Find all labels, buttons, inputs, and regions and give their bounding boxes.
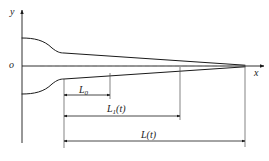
dimension-label-L1-main: L [107, 103, 113, 114]
dimension-label-L0-main: L [79, 84, 85, 95]
dimension-label-L0: L0 [79, 85, 88, 95]
dimension-label-L: L(t) [141, 130, 156, 140]
dimension-label-L1-paren: (t) [116, 103, 125, 114]
axis-group [22, 10, 264, 143]
y-axis-label: y [10, 7, 14, 17]
dimension-label-L1-sub: 1 [113, 108, 117, 116]
jet-lower-boundary [22, 67, 245, 94]
jet-upper-boundary [22, 38, 245, 65]
dimension-label-L0-sub: 0 [85, 89, 89, 97]
figure-canvas [0, 0, 269, 161]
dimension-label-L1: L1(t) [107, 104, 126, 114]
jet-profile-figure: y o x L0 L1(t) L(t) [0, 0, 269, 161]
origin-label: o [9, 60, 14, 70]
dimension-label-L-paren: (t) [147, 129, 156, 140]
x-axis-label: x [254, 68, 258, 78]
